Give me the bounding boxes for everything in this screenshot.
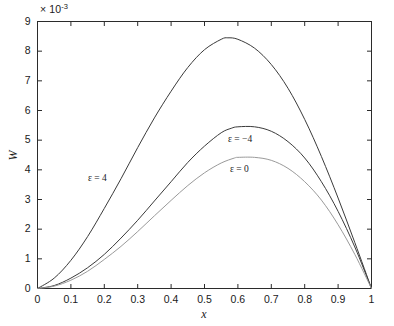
y-axis-tick-label: 9 [5,16,31,27]
x-axis-tick-label: 1 [352,294,392,305]
y-axis-multiplier-prefix: × 10 [40,3,61,15]
y-axis-tick-label: 7 [5,75,31,86]
x-axis-label: x [180,307,228,322]
y-axis-tick-label: 2 [5,223,31,234]
y-axis-tick-label: 4 [5,164,31,175]
data-curve-1 [38,126,372,288]
curve-annotation-eps-4: ε = 4 [88,173,107,183]
y-axis-tick-label: 6 [5,105,31,116]
y-axis-tick-label: 3 [5,194,31,205]
y-axis-tick-label: 8 [5,45,31,56]
plot-area [0,0,394,326]
curve-annotation-eps-neg4: ε = −4 [228,134,252,144]
y-axis-tick-label: 5 [5,134,31,145]
plot-box-border [38,22,372,289]
y-axis-tick-label: 1 [5,253,31,264]
data-curve-0 [38,38,372,289]
y-axis-multiplier-exponent: -3 [61,2,68,11]
curve-annotation-eps-0: ε = 0 [230,164,249,174]
y-axis-tick-label: 0 [5,283,31,294]
y-axis-multiplier: × 10-3 [40,3,68,15]
chart-figure: × 10-3 W x 012345678900.10.20.30.40.50.6… [0,0,394,326]
